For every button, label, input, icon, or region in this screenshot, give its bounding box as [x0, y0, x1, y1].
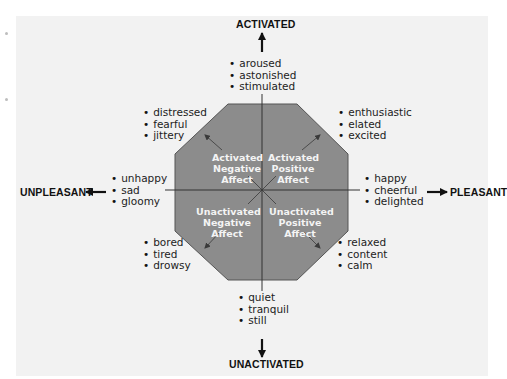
emotion-item: bored	[143, 237, 191, 249]
emotion-item: jittery	[143, 130, 207, 142]
quadrant-unactivated-negative: Unactivated Negative Affect	[196, 206, 258, 239]
emotion-item: quiet	[238, 292, 289, 304]
quadrant-unactivated-positive: Unactivated Positive Affect	[269, 206, 331, 239]
emotion-list-top: aroused astonished stimulated	[229, 58, 296, 93]
emotion-item: calm	[337, 260, 387, 272]
emotion-item: delighted	[364, 196, 424, 208]
quadrant-label-line: Unactivated	[269, 206, 331, 217]
quadrant-label-line: Negative	[196, 217, 258, 228]
emotion-item: distressed	[143, 107, 207, 119]
emotion-item: happy	[364, 173, 424, 185]
quadrant-label-line: Unactivated	[196, 206, 258, 217]
axis-label-unactivated: UNACTIVATED	[229, 358, 304, 370]
quadrant-activated-positive: Activated Positive Affect	[268, 152, 318, 185]
emotion-item: unhappy	[111, 173, 167, 185]
quadrant-label-line: Affect	[269, 228, 331, 239]
quadrant-label-line: Affect	[268, 174, 318, 185]
emotion-list-bottom-right: relaxed content calm	[337, 237, 387, 272]
emotion-list-top-right: enthusiastic elated excited	[338, 107, 412, 142]
quadrant-label-line: Negative	[212, 163, 262, 174]
emotion-item: aroused	[229, 58, 296, 70]
emotion-list-left: unhappy sad gloomy	[111, 173, 167, 208]
emotion-item: stimulated	[229, 81, 296, 93]
emotion-list-bottom-left: bored tired drowsy	[143, 237, 191, 272]
quadrant-label-line: Activated	[268, 152, 318, 163]
quadrant-label-line: Affect	[212, 174, 262, 185]
quadrant-label-line: Activated	[212, 152, 262, 163]
emotion-list-right: happy cheerful delighted	[364, 173, 424, 208]
quadrant-label-line: Positive	[268, 163, 318, 174]
axis-label-unpleasant: UNPLEASANT	[20, 186, 93, 198]
quadrant-activated-negative: Activated Negative Affect	[212, 152, 262, 185]
emotion-item: gloomy	[111, 196, 167, 208]
emotion-list-bottom: quiet tranquil still	[238, 292, 289, 327]
quadrant-label-line: Positive	[269, 217, 331, 228]
emotion-item: excited	[338, 130, 412, 142]
emotion-item: drowsy	[143, 260, 191, 272]
emotion-item: enthusiastic	[338, 107, 412, 119]
emotion-list-top-left: distressed fearful jittery	[143, 107, 207, 142]
emotion-item: relaxed	[337, 237, 387, 249]
axis-label-pleasant: PLEASANT	[450, 186, 507, 198]
quadrant-label-line: Affect	[196, 228, 258, 239]
emotion-item: still	[238, 315, 289, 327]
axis-label-activated: ACTIVATED	[236, 18, 295, 30]
